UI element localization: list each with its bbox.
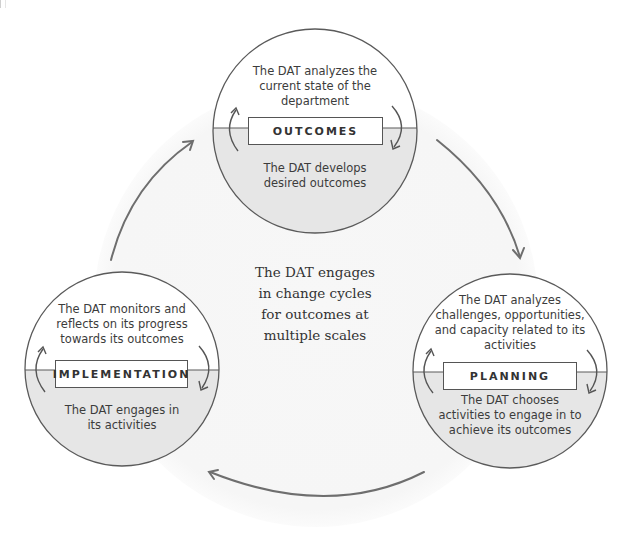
outcomes-lower-text: The DAT develops desired outcomes — [235, 161, 395, 191]
center-statement: The DAT engages in change cycles for out… — [225, 262, 405, 346]
implementation-label: IMPLEMENTATION — [55, 360, 188, 388]
outcomes-upper-text: The DAT analyzes the current state of th… — [235, 64, 395, 109]
implementation-lower-text: The DAT engages in its activities — [37, 403, 207, 433]
outcomes-label: OUTCOMES — [248, 117, 383, 145]
planning-lower-text: The DAT chooses activities to engage in … — [420, 393, 600, 438]
planning-upper-text: The DAT analyzes challenges, opportuniti… — [420, 293, 600, 353]
implementation-upper-text: The DAT monitors and reflects on its pro… — [37, 302, 207, 347]
planning-label: PLANNING — [443, 362, 577, 390]
